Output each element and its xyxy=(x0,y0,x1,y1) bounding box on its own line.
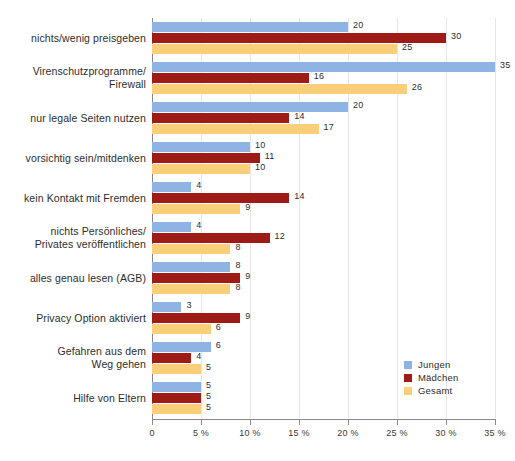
bar-group: 4128 xyxy=(152,222,495,255)
bar-value-label: 5 xyxy=(206,380,211,390)
bar-value-label: 4 xyxy=(196,180,201,190)
legend-swatch-icon xyxy=(404,374,412,382)
bar-row: 9 xyxy=(152,313,495,323)
y-axis-category-label-line: alles genau lesen (AGB) xyxy=(4,272,146,285)
bar xyxy=(152,102,348,112)
bar-value-label: 25 xyxy=(402,42,412,52)
x-tick-label: 0 xyxy=(149,428,154,438)
y-axis-category-label: Virenschutzprogramme/Firewall xyxy=(4,65,146,91)
y-axis-category-labels: nichts/wenig preisgebenVirenschutzprogra… xyxy=(0,18,146,418)
x-tick-label: 30 % xyxy=(435,428,456,438)
bar-value-label: 20 xyxy=(353,100,363,110)
bar-row: 17 xyxy=(152,124,495,134)
y-axis-category-label-line: nichts/wenig preisgeben xyxy=(4,32,146,45)
y-axis-category-label-line: Gefahren aus dem xyxy=(4,345,146,358)
bar-value-label: 8 xyxy=(235,282,240,292)
bar-row: 3 xyxy=(152,302,495,312)
y-axis-category-label: kein Kontakt mit Fremden xyxy=(4,192,146,205)
y-axis-category-label: Hilfe von Eltern xyxy=(4,392,146,405)
bar-value-label: 8 xyxy=(235,260,240,270)
bar xyxy=(152,164,250,174)
bar xyxy=(152,382,201,392)
x-tick-label: 35 % xyxy=(484,428,505,438)
bar-group: 203025 xyxy=(152,22,495,55)
legend-item: Jungen xyxy=(404,358,458,371)
x-tick-label: 25 % xyxy=(386,428,407,438)
legend-label: Gesamt xyxy=(418,385,452,396)
bar-group: 201417 xyxy=(152,102,495,135)
y-axis-category-label: nichts Persönliches/Privates veröffentli… xyxy=(4,225,146,251)
bar-row: 6 xyxy=(152,324,495,334)
bar-row: 4 xyxy=(152,182,495,192)
bar-row: 8 xyxy=(152,244,495,254)
bar-value-label: 14 xyxy=(294,191,304,201)
x-tick-mark xyxy=(348,419,349,425)
y-axis-category-label-line: Privacy Option aktiviert xyxy=(4,312,146,325)
bar-value-label: 6 xyxy=(216,340,221,350)
bar xyxy=(152,22,348,32)
bar xyxy=(152,153,260,163)
y-axis-category-label-line: nichts Persönliches/ xyxy=(4,225,146,238)
bar-row: 8 xyxy=(152,262,495,272)
legend-label: Mädchen xyxy=(418,372,458,383)
bar-group: 4149 xyxy=(152,182,495,215)
y-axis-category-label-line: nur legale Seiten nutzen xyxy=(4,112,146,125)
y-axis-category-label: alles genau lesen (AGB) xyxy=(4,272,146,285)
bar-value-label: 12 xyxy=(275,231,285,241)
bar xyxy=(152,113,289,123)
y-axis-category-label: Gefahren aus demWeg gehen xyxy=(4,345,146,371)
bar-value-label: 20 xyxy=(353,20,363,30)
x-tick-label: 10 % xyxy=(239,428,260,438)
y-axis-category-label-line: Weg gehen xyxy=(4,358,146,371)
bar xyxy=(152,364,201,374)
bar xyxy=(152,124,319,134)
bar-row: 12 xyxy=(152,233,495,243)
bar xyxy=(152,233,270,243)
bar-value-label: 10 xyxy=(255,140,265,150)
bar-group: 351626 xyxy=(152,62,495,95)
bar-row: 25 xyxy=(152,44,495,54)
bar-row: 30 xyxy=(152,33,495,43)
bar-row: 16 xyxy=(152,73,495,83)
bar xyxy=(152,222,191,232)
bar-value-label: 9 xyxy=(245,311,250,321)
legend-item: Mädchen xyxy=(404,371,458,384)
bar xyxy=(152,284,230,294)
bar-row: 5 xyxy=(152,404,495,414)
bar xyxy=(152,273,240,283)
bar-value-label: 10 xyxy=(255,162,265,172)
x-tick-mark xyxy=(152,419,153,425)
y-axis-category-label: vorsichtig sein/mitdenken xyxy=(4,152,146,165)
bar-row: 10 xyxy=(152,142,495,152)
bar-row: 8 xyxy=(152,284,495,294)
gridline xyxy=(495,18,496,418)
y-axis-category-label-line: Virenschutzprogramme/ xyxy=(4,65,146,78)
y-axis-category-label-line: Privates veröffentlichen xyxy=(4,238,146,251)
legend-label: Jungen xyxy=(418,359,450,370)
bar xyxy=(152,353,191,363)
bar xyxy=(152,324,211,334)
bar-group: 101110 xyxy=(152,142,495,175)
bar-value-label: 5 xyxy=(206,362,211,372)
bar-value-label: 11 xyxy=(265,151,275,161)
bar-row: 14 xyxy=(152,193,495,203)
bar-value-label: 26 xyxy=(412,82,422,92)
bar xyxy=(152,244,230,254)
bar xyxy=(152,393,201,403)
bar-chart: 05 %10 %15 %20 %25 %30 %35 % nichts/weni… xyxy=(0,0,515,461)
bar-row: 4 xyxy=(152,222,495,232)
bar-value-label: 17 xyxy=(324,122,334,132)
y-axis-category-label-line: vorsichtig sein/mitdenken xyxy=(4,152,146,165)
y-axis-category-label-line: Hilfe von Eltern xyxy=(4,392,146,405)
y-axis-category-label-line: Firewall xyxy=(4,78,146,91)
bar xyxy=(152,84,407,94)
bar-row: 20 xyxy=(152,22,495,32)
y-axis-category-label: nichts/wenig preisgeben xyxy=(4,32,146,45)
bar-value-label: 6 xyxy=(216,322,221,332)
bar xyxy=(152,302,181,312)
bar-row: 6 xyxy=(152,342,495,352)
bar-value-label: 4 xyxy=(196,220,201,230)
bar-row: 9 xyxy=(152,204,495,214)
bar-value-label: 16 xyxy=(314,71,324,81)
x-tick-mark xyxy=(201,419,202,425)
